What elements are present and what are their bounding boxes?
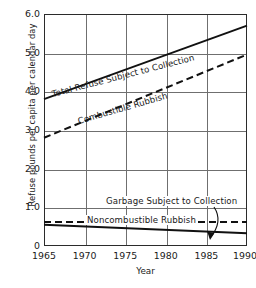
gridline-x-1985 [207, 15, 208, 245]
y-tick-label-4: 4.0 [25, 87, 40, 96]
y-tick-label-3: 3.0 [25, 125, 40, 134]
gridline-y-5 [45, 54, 246, 55]
y-tick-label-5: 5.0 [25, 48, 40, 57]
gridline-y-1 [45, 208, 246, 209]
refuse-generation-chart: Refuse pounds per capita per calendar da… [0, 0, 256, 288]
x-axis-title: Year [44, 266, 247, 276]
gridline-x-1970 [86, 15, 87, 245]
x-tick-label-1980: 1980 [154, 251, 178, 260]
gridline-x-1975 [126, 15, 127, 245]
gridline-y-2 [45, 170, 246, 171]
plot-area [44, 14, 247, 246]
x-tick-label-1970: 1970 [73, 251, 97, 260]
gridline-x-1980 [167, 15, 168, 245]
x-tick-label-1965: 1965 [32, 251, 56, 260]
gridline-y-3 [45, 131, 246, 132]
y-tick-label-2: 2.0 [25, 164, 40, 173]
series-label-garbage: Garbage Subject to Collection [105, 196, 238, 206]
y-axis-ticks: 6.0 5.0 4.0 3.0 2.0 1.0 0 [0, 14, 44, 246]
series-label-noncombustible: Noncombustible Rubbish [86, 215, 197, 225]
x-tick-label-1990: 1990 [233, 251, 256, 260]
x-tick-label-1985: 1985 [194, 251, 218, 260]
y-tick-label-6: 6.0 [25, 9, 40, 18]
x-tick-label-1975: 1975 [113, 251, 137, 260]
y-tick-label-1: 1.0 [25, 203, 40, 212]
